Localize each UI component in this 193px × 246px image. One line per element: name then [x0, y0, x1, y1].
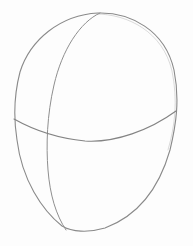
horizontal-eye-line [14, 111, 176, 141]
vertical-center-line [47, 13, 100, 230]
head-outline [15, 13, 177, 231]
pencil-sketch [0, 0, 193, 246]
